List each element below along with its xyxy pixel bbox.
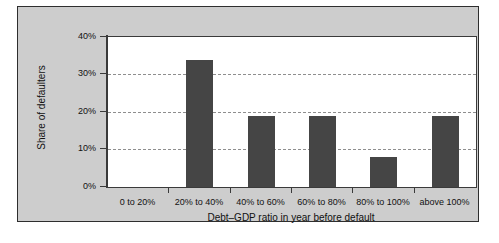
x-tick-mark-4 xyxy=(352,188,353,193)
y-axis-labels: 40% 30% 20% 10% 0% xyxy=(58,7,96,243)
chart-figure: Share of defaulters 40% 30% 20% 10% 0% xyxy=(0,0,499,243)
x-tick-mark-2 xyxy=(230,188,231,193)
x-tick-mark-5 xyxy=(414,188,415,193)
gridline-20 xyxy=(108,112,476,113)
x-tick-label-0-to-20: 0 to 20% xyxy=(107,197,168,207)
bar-80-to-100 xyxy=(370,157,397,187)
gridline-10 xyxy=(108,149,476,150)
y-tick-label-40: 40% xyxy=(78,32,96,41)
bar-60-to-80 xyxy=(309,116,336,187)
bar-40-to-60 xyxy=(248,116,275,187)
x-axis-title: Debt–GDP ratio in year before default xyxy=(107,212,475,223)
x-tick-label-20-to-40: 20% to 40% xyxy=(168,197,230,207)
x-tick-mark-3 xyxy=(291,188,292,193)
y-tick-label-20: 20% xyxy=(78,107,96,116)
x-tick-mark-1 xyxy=(168,188,169,193)
y-tick-label-0: 0% xyxy=(83,182,96,191)
x-tick-label-40-to-60: 40% to 60% xyxy=(230,197,291,207)
bar-20-to-40 xyxy=(186,60,213,188)
x-tick-label-60-to-80: 60% to 80% xyxy=(291,197,352,207)
y-tick-label-10: 10% xyxy=(78,144,96,153)
plot-inner xyxy=(108,37,476,187)
chart-panel: Share of defaulters 40% 30% 20% 10% 0% xyxy=(17,6,479,222)
bar-above-100 xyxy=(432,116,459,187)
plot-area xyxy=(107,36,477,188)
x-tick-label-80-to-100: 80% to 100% xyxy=(352,197,414,207)
y-axis-title: Share of defaulters xyxy=(36,38,47,178)
y-tick-label-30: 30% xyxy=(78,69,96,78)
x-tick-label-above-100: above 100% xyxy=(414,197,475,207)
gridline-30 xyxy=(108,74,476,75)
